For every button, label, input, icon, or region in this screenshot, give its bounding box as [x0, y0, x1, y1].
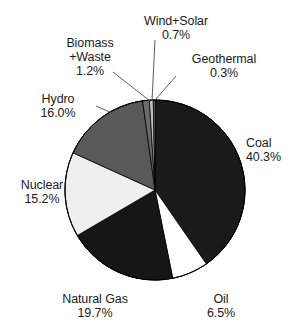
slice-label-nuclear-pct: 15.2%: [4, 192, 80, 206]
slice-label-geothermal-name: Geothermal: [174, 52, 274, 66]
pie-chart-figure: Wind+Solar 0.7% Biomass +Waste 1.2% Geot…: [0, 0, 303, 336]
slice-label-natural-gas-pct: 19.7%: [38, 306, 152, 320]
slice-label-biomass-name-a: Biomass: [52, 36, 128, 50]
slice-label-hydro-name: Hydro: [20, 92, 96, 106]
slice-label-wind-solar: Wind+Solar 0.7%: [130, 14, 222, 42]
slice-label-biomass-waste: Biomass +Waste 1.2%: [52, 36, 128, 78]
leader-line-geothermal: [155, 76, 176, 100]
slice-label-wind-solar-pct: 0.7%: [130, 28, 222, 42]
energy-mix-pie-chart: [0, 0, 303, 336]
slice-label-wind-solar-name: Wind+Solar: [130, 14, 222, 28]
slice-label-natural-gas: Natural Gas 19.7%: [38, 292, 152, 320]
slice-label-coal-pct: 40.3%: [246, 150, 300, 164]
slice-label-coal-name: Coal: [246, 136, 300, 150]
slice-label-biomass-name-b: +Waste: [52, 50, 128, 64]
slice-label-biomass-pct: 1.2%: [52, 64, 128, 78]
leader-line-hydro: [96, 106, 112, 113]
slice-label-geothermal-pct: 0.3%: [174, 66, 274, 80]
slice-label-hydro: Hydro 16.0%: [20, 92, 96, 120]
slice-label-oil-name: Oil: [190, 292, 252, 306]
slice-label-geothermal: Geothermal 0.3%: [174, 52, 274, 80]
slice-label-oil: Oil 6.5%: [190, 292, 252, 320]
slice-label-nuclear: Nuclear 15.2%: [4, 178, 80, 206]
slice-label-natural-gas-name: Natural Gas: [38, 292, 152, 306]
slice-label-nuclear-name: Nuclear: [4, 178, 80, 192]
slice-label-coal: Coal 40.3%: [246, 136, 300, 164]
slice-label-oil-pct: 6.5%: [190, 306, 252, 320]
leader-line-wind-solar: [152, 40, 155, 101]
pie-slices-group: [65, 100, 245, 280]
slice-label-hydro-pct: 16.0%: [20, 106, 96, 120]
